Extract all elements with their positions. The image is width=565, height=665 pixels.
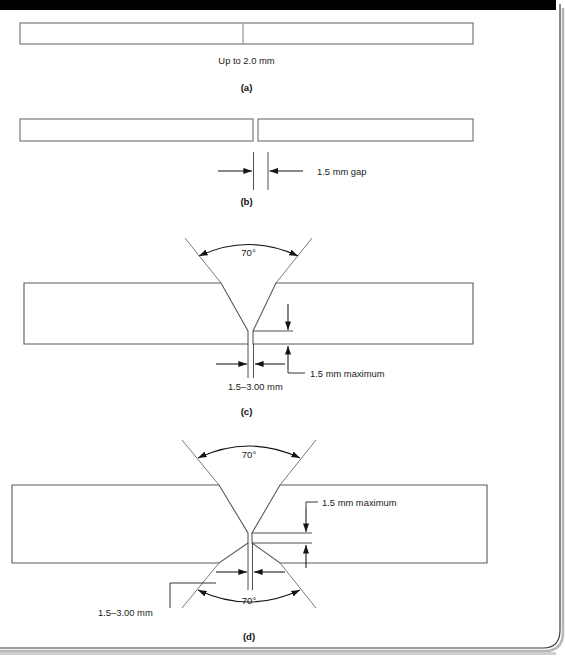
part-c-caption: (c) [241,406,253,417]
weld-preparation-figure: Up to 2.0 mm (a) 1.5 mm gap (b) 70° 1. [0,0,565,665]
part-d-root-gap-label: 1.5–3.00 mm [98,607,153,618]
figure-container: Up to 2.0 mm (a) 1.5 mm gap (b) 70° 1. [0,0,565,665]
part-c-plate-right [253,283,473,344]
part-a-caption: (a) [241,82,253,93]
page-bottom-shadow [0,652,556,655]
part-c-root-gap-label: 1.5–3.00 mm [228,381,283,392]
part-a-plate [20,23,473,44]
part-d-caption: (d) [243,631,255,642]
part-d-angle-top-label: 70° [242,449,257,460]
part-d-root-face-label: 1.5 mm maximum [322,497,397,508]
part-c-root-face-label: 1.5 mm maximum [310,368,385,379]
part-d-angle-bottom-label: 70° [242,595,257,606]
part-b-plate-right [258,119,473,141]
part-b-caption: (b) [240,196,252,207]
part-d-plate-left [12,485,248,563]
part-b-gap-label: 1.5 mm gap [317,166,367,177]
part-b-plate-left [20,119,253,141]
top-black-bar [0,0,556,10]
part-a-thickness-label: Up to 2.0 mm [218,55,274,66]
part-c-angle-label: 70° [241,247,256,258]
part-c-plate-left [24,283,248,344]
